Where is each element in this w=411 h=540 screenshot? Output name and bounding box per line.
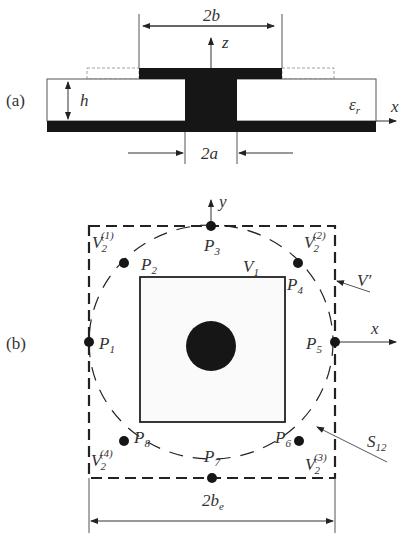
point-p7 [207,473,217,483]
z-axis-label: z [221,33,229,52]
x-axis-label: x [390,97,399,116]
label-p7: P7 [203,447,220,468]
label-v2-4: V2(4) [91,447,113,472]
label-v2-1: V2(1) [92,229,114,254]
point-p2 [119,258,129,268]
label-v2-3: V2(3) [305,451,327,476]
post-cross-section [186,321,236,371]
label-p2: P2 [140,255,157,276]
panel-a-label: (a) [6,91,25,110]
top-patch [139,68,282,79]
patch-extent-right-dashed [282,68,334,79]
label-p4: P4 [286,275,303,296]
label-p6: P6 [274,428,291,449]
label-v1: V1 [243,257,259,278]
label-v2-2: V2(2) [304,229,326,254]
patch-extent-left-dashed [87,68,139,79]
dim-h-label: h [80,91,89,110]
point-p5 [330,337,340,347]
panel-b-top-view: (b) y x P1 P2 P3 P4 P5 P6 P7 P8 [6,192,396,533]
point-p3 [206,221,216,231]
panel-a-cross-section: (a) 2b z h εr x 2a [6,6,399,164]
y-axis-label: y [217,192,227,211]
label-s12: S12 [367,432,387,453]
via-post [185,79,237,123]
point-p1 [84,337,94,347]
point-p8 [119,436,129,446]
label-p5: P5 [305,334,322,355]
figure-canvas: (a) 2b z h εr x 2a [0,0,411,540]
dim-2a-label: 2a [201,144,218,163]
label-p3: P3 [203,236,220,257]
dim-2be-label: 2be [202,491,224,512]
label-vprime: V′ [357,271,371,290]
label-p8: P8 [133,428,150,449]
panel-b-label: (b) [6,334,26,353]
point-p6 [294,436,304,446]
x-axis-label-b: x [370,319,379,338]
dim-2b-label: 2b [203,6,220,25]
point-p4 [293,258,303,268]
label-p1: P1 [98,334,115,355]
